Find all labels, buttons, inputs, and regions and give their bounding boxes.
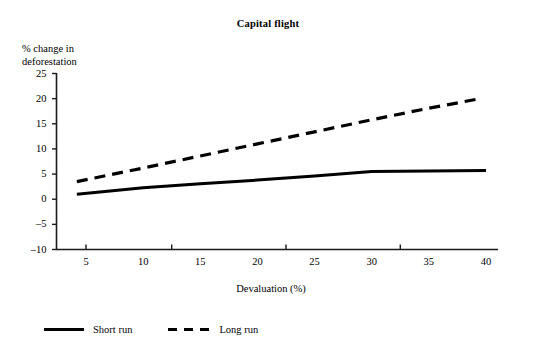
y-tick-label: –5 — [17, 218, 47, 229]
chart-legend: Short run Long run — [40, 318, 370, 340]
y-tick-label: 15 — [17, 118, 47, 129]
y-tick-label: 20 — [17, 93, 47, 104]
x-tick-label: 30 — [357, 256, 387, 267]
plot-area — [0, 0, 536, 354]
y-tick-label: –10 — [17, 244, 47, 255]
series-line-long-run — [77, 99, 480, 182]
x-axis-label: Devaluation (%) — [56, 283, 486, 294]
x-tick-label: 25 — [300, 256, 330, 267]
x-tick-label: 35 — [414, 256, 444, 267]
series-line-short-run — [77, 171, 486, 195]
x-tick-label: 15 — [185, 256, 215, 267]
dashed-line-swatch-icon — [168, 328, 210, 331]
chart-figure: Capital flight % change in deforestation… — [0, 0, 536, 354]
y-tick-label: 10 — [17, 143, 47, 154]
y-tick-label: 0 — [17, 193, 47, 204]
legend-label-short-run: Short run — [93, 324, 132, 335]
y-tick-label: 25 — [17, 68, 47, 79]
legend-item-long-run: Long run — [168, 324, 258, 335]
y-tick-label: 5 — [17, 168, 47, 179]
solid-line-swatch-icon — [44, 328, 84, 331]
x-tick-label: 5 — [71, 256, 101, 267]
x-tick-label: 20 — [242, 256, 272, 267]
x-tick-label: 40 — [471, 256, 501, 267]
legend-item-short-run: Short run — [44, 324, 132, 335]
x-tick-label: 10 — [128, 256, 158, 267]
legend-label-long-run: Long run — [219, 324, 258, 335]
